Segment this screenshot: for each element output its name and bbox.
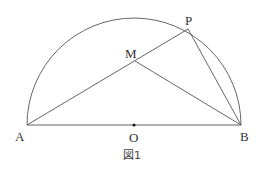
segment-MB	[135, 61, 241, 125]
segment-PB	[188, 29, 241, 125]
label-P: P	[185, 13, 192, 28]
label-A: A	[15, 129, 25, 144]
label-M: M	[125, 46, 137, 61]
label-O: O	[129, 130, 138, 145]
figure-caption: 図1	[123, 149, 141, 162]
segment-AP	[27, 29, 188, 125]
semicircle-arc	[27, 18, 241, 125]
center-point-O	[132, 123, 135, 126]
label-B: B	[240, 129, 249, 144]
figure-canvas: A B O P M 図1	[0, 0, 267, 178]
